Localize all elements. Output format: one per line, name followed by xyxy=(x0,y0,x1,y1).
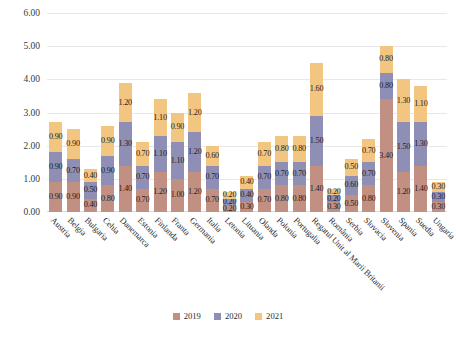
bar-segment-2019[interactable]: 0.30 xyxy=(432,202,445,212)
bar-group[interactable]: 0.800.700.80 xyxy=(273,13,290,212)
bar-segment-2021[interactable]: 0.70 xyxy=(362,139,375,162)
bar-stack[interactable]: 1.401.301.20 xyxy=(119,83,132,212)
bar-group[interactable]: 1.001.100.90 xyxy=(169,13,186,212)
bar-segment-2020[interactable]: 0.60 xyxy=(345,176,358,196)
bar-segment-2021[interactable]: 0.90 xyxy=(49,122,62,152)
bar-segment-2019[interactable]: 1.20 xyxy=(397,172,410,212)
bar-segment-2019[interactable]: 0.90 xyxy=(49,182,62,212)
bar-group[interactable]: 0.700.700.70 xyxy=(256,13,273,212)
bar-stack[interactable]: 1.201.501.30 xyxy=(397,79,410,212)
bar-segment-2020[interactable]: 1.30 xyxy=(119,122,132,165)
bar-group[interactable]: 0.700.700.60 xyxy=(204,13,221,212)
bar-stack[interactable]: 1.401.501.60 xyxy=(310,63,323,212)
bar-segment-2019[interactable]: 1.00 xyxy=(171,179,184,212)
bar-stack[interactable]: 0.900.700.90 xyxy=(67,129,80,212)
bar-segment-2019[interactable]: 1.20 xyxy=(188,172,201,212)
bar-segment-2020[interactable]: 0.70 xyxy=(67,159,80,182)
bar-stack[interactable]: 0.800.700.70 xyxy=(362,139,375,212)
bar-segment-2021[interactable]: 0.80 xyxy=(275,136,288,163)
bar-segment-2020[interactable]: 0.70 xyxy=(275,162,288,185)
bar-segment-2020[interactable]: 0.20 xyxy=(223,199,236,206)
legend-item-2020[interactable]: 2020 xyxy=(214,311,242,321)
bar-segment-2019[interactable]: 0.70 xyxy=(258,189,271,212)
bar-segment-2019[interactable]: 0.80 xyxy=(275,185,288,212)
bar-segment-2020[interactable]: 1.10 xyxy=(154,136,167,172)
bar-segment-2020[interactable]: 0.80 xyxy=(380,73,393,100)
bar-segment-2021[interactable]: 0.20 xyxy=(327,189,340,196)
bar-segment-2021[interactable]: 0.80 xyxy=(293,136,306,163)
bar-segment-2019[interactable]: 0.40 xyxy=(84,199,97,212)
bar-stack[interactable]: 0.700.700.60 xyxy=(206,146,219,212)
bar-group[interactable]: 0.300.400.40 xyxy=(238,13,255,212)
bar-segment-2020[interactable]: 1.30 xyxy=(414,122,427,165)
bar-segment-2021[interactable]: 0.20 xyxy=(223,192,236,199)
bar-segment-2019[interactable]: 0.30 xyxy=(327,202,340,212)
bar-group[interactable]: 1.401.501.60 xyxy=(308,13,325,212)
bar-stack[interactable]: 0.800.700.80 xyxy=(293,136,306,212)
bar-stack[interactable]: 1.201.201.20 xyxy=(188,93,201,212)
bar-segment-2021[interactable]: 0.90 xyxy=(67,129,80,159)
bar-segment-2021[interactable]: 0.40 xyxy=(240,176,253,189)
bar-segment-2021[interactable]: 0.50 xyxy=(345,159,358,176)
bar-group[interactable]: 0.700.700.70 xyxy=(134,13,151,212)
bar-segment-2020[interactable]: 0.40 xyxy=(240,189,253,202)
bar-segment-2020[interactable]: 1.20 xyxy=(188,132,201,172)
bar-group[interactable]: 3.400.800.80 xyxy=(377,13,394,212)
bar-group[interactable]: 1.201.201.20 xyxy=(186,13,203,212)
bar-segment-2020[interactable]: 0.70 xyxy=(206,166,219,189)
bar-segment-2019[interactable]: 0.90 xyxy=(67,182,80,212)
bar-group[interactable]: 1.401.301.10 xyxy=(412,13,429,212)
bar-group[interactable]: 0.900.900.90 xyxy=(47,13,64,212)
bar-segment-2021[interactable]: 1.10 xyxy=(414,86,427,122)
bar-group[interactable]: 1.201.101.10 xyxy=(151,13,168,212)
bar-group[interactable]: 0.400.500.40 xyxy=(82,13,99,212)
bar-segment-2021[interactable]: 1.20 xyxy=(119,83,132,123)
bar-group[interactable]: 1.401.301.20 xyxy=(117,13,134,212)
bar-group[interactable]: 0.800.900.90 xyxy=(99,13,116,212)
legend-item-2019[interactable]: 2019 xyxy=(173,311,201,321)
bar-stack[interactable]: 0.400.500.40 xyxy=(84,169,97,212)
bar-segment-2021[interactable]: 0.70 xyxy=(136,142,149,165)
bar-stack[interactable]: 0.700.700.70 xyxy=(136,142,149,212)
bar-segment-2020[interactable]: 0.70 xyxy=(136,166,149,189)
bar-segment-2020[interactable]: 1.50 xyxy=(397,122,410,172)
bar-stack[interactable]: 0.900.900.90 xyxy=(49,122,62,212)
bar-stack[interactable]: 0.300.400.40 xyxy=(240,176,253,212)
bar-segment-2020[interactable]: 0.70 xyxy=(362,162,375,185)
bar-group[interactable]: 0.800.700.80 xyxy=(290,13,307,212)
bar-segment-2021[interactable]: 1.10 xyxy=(154,99,167,135)
bar-segment-2019[interactable]: 0.80 xyxy=(293,185,306,212)
bar-segment-2019[interactable]: 0.50 xyxy=(345,195,358,212)
bar-stack[interactable]: 0.300.200.20 xyxy=(327,189,340,212)
bar-segment-2019[interactable]: 1.40 xyxy=(310,166,323,212)
bar-group[interactable]: 1.201.501.30 xyxy=(395,13,412,212)
bar-group[interactable]: 0.300.300.30 xyxy=(430,13,447,212)
bar-segment-2021[interactable]: 0.80 xyxy=(380,46,393,73)
bar-segment-2019[interactable]: 1.20 xyxy=(154,172,167,212)
bar-segment-2021[interactable]: 0.40 xyxy=(84,169,97,182)
bar-segment-2020[interactable]: 0.30 xyxy=(432,192,445,202)
bar-group[interactable]: 0.500.600.50 xyxy=(343,13,360,212)
bar-stack[interactable]: 3.400.800.80 xyxy=(380,46,393,212)
bar-stack[interactable]: 0.700.700.70 xyxy=(258,142,271,212)
bar-stack[interactable]: 0.300.300.30 xyxy=(432,182,445,212)
bar-stack[interactable]: 0.200.200.20 xyxy=(223,192,236,212)
bar-segment-2020[interactable]: 0.90 xyxy=(49,152,62,182)
bar-segment-2021[interactable]: 0.90 xyxy=(101,126,114,156)
bar-segment-2021[interactable]: 0.90 xyxy=(171,113,184,143)
bar-segment-2019[interactable]: 0.80 xyxy=(101,185,114,212)
bar-segment-2021[interactable]: 0.70 xyxy=(258,142,271,165)
bar-segment-2019[interactable]: 3.40 xyxy=(380,99,393,212)
bar-segment-2020[interactable]: 0.50 xyxy=(84,182,97,199)
bar-segment-2019[interactable]: 0.70 xyxy=(136,189,149,212)
bar-segment-2019[interactable]: 0.70 xyxy=(206,189,219,212)
bar-segment-2020[interactable]: 1.10 xyxy=(171,142,184,178)
bar-segment-2021[interactable]: 0.30 xyxy=(432,182,445,192)
bar-segment-2020[interactable]: 0.90 xyxy=(101,156,114,186)
bar-group[interactable]: 0.900.700.90 xyxy=(64,13,81,212)
bar-segment-2019[interactable]: 1.40 xyxy=(119,166,132,212)
bar-segment-2021[interactable]: 1.30 xyxy=(397,79,410,122)
legend-item-2021[interactable]: 2021 xyxy=(255,311,283,321)
bar-segment-2019[interactable]: 1.40 xyxy=(414,166,427,212)
bar-group[interactable]: 0.200.200.20 xyxy=(221,13,238,212)
